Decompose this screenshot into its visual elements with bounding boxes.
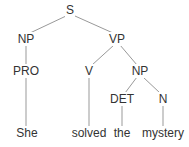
tree-node-np2: NP	[131, 64, 150, 78]
tree-node-det: DET	[109, 92, 135, 106]
tree-node-pro: PRO	[12, 64, 40, 78]
edge-np2-det	[125, 77, 137, 93]
tree-node-np1: NP	[17, 32, 36, 46]
tree-node-w-she: She	[15, 126, 38, 140]
tree-node-w-mystery: mystery	[141, 126, 185, 140]
edge-s-vp	[75, 16, 113, 33]
edge-s-np1	[30, 16, 66, 33]
tree-node-vp: VP	[108, 32, 126, 46]
tree-node-w-the: the	[113, 126, 132, 140]
tree-node-v: V	[84, 64, 94, 78]
edge-vp-np2	[120, 45, 137, 65]
edge-vp-v	[92, 45, 114, 65]
edge-np2-n	[143, 77, 160, 93]
syntax-tree: SNPVPPROVNPDETNShesolvedthemystery	[0, 0, 189, 147]
tree-node-n: N	[158, 92, 169, 106]
tree-node-s: S	[65, 3, 75, 17]
tree-node-w-solved: solved	[71, 126, 108, 140]
